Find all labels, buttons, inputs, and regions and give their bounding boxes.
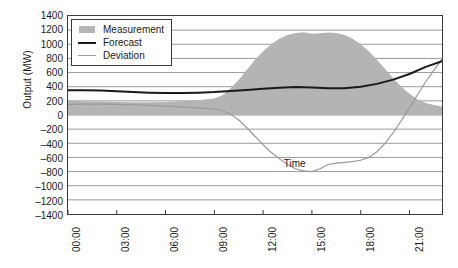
- x-tick-label: 12:00: [267, 227, 278, 252]
- x-tick-label: 09:00: [218, 227, 229, 252]
- y-tick-label: –1400: [35, 210, 63, 221]
- chart-container: Output (MW) 1400120010008006004002000–20…: [0, 0, 458, 268]
- x-tick-label: 21:00: [414, 227, 425, 252]
- chart-legend: Measurement Forecast Deviation: [71, 19, 172, 66]
- y-tick-label: 200: [46, 95, 63, 106]
- time-annotation: Time: [284, 158, 306, 169]
- y-tick-label: –400: [41, 138, 63, 149]
- legend-label-forecast: Forecast: [103, 36, 142, 49]
- x-tick-label: 00:00: [71, 227, 82, 252]
- legend-item-measurement: Measurement: [77, 23, 164, 36]
- y-tick-label: 800: [46, 52, 63, 63]
- x-tick-label: 03:00: [120, 227, 131, 252]
- legend-area-swatch-icon: [77, 24, 97, 35]
- y-tick-label: –1200: [35, 195, 63, 206]
- x-axis-ticks: [68, 210, 409, 214]
- legend-label-deviation: Deviation: [103, 49, 145, 62]
- legend-item-deviation: Deviation: [77, 49, 164, 62]
- legend-line-swatch-gray-icon: [77, 50, 97, 61]
- y-tick-label: –200: [41, 124, 63, 135]
- legend-label-measurement: Measurement: [103, 23, 164, 36]
- y-tick-label: 1200: [41, 24, 63, 35]
- y-tick-label: 1000: [41, 38, 63, 49]
- y-tick-label: –800: [41, 167, 63, 178]
- y-tick-label: 1400: [41, 10, 63, 21]
- x-tick-label: 15:00: [316, 227, 327, 252]
- y-axis-tick-labels: 1400120010008006004002000–200–400–600–80…: [27, 15, 63, 215]
- y-tick-label: 600: [46, 67, 63, 78]
- y-tick-label: 0: [57, 110, 63, 121]
- legend-item-forecast: Forecast: [77, 36, 164, 49]
- y-tick-label: 400: [46, 81, 63, 92]
- y-tick-label: –600: [41, 152, 63, 163]
- x-tick-label: 18:00: [365, 227, 376, 252]
- x-axis-tick-labels: 00:0003:0006:0009:0012:0015:0018:0021:00: [67, 216, 443, 268]
- y-tick-label: –1000: [35, 181, 63, 192]
- legend-line-swatch-icon: [77, 37, 97, 48]
- x-tick-label: 06:00: [169, 227, 180, 252]
